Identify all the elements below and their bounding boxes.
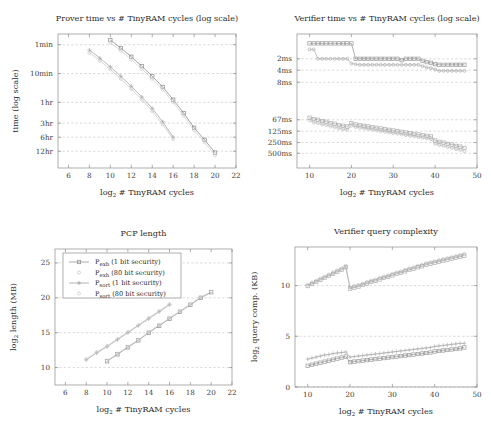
panel-verifier-query-complexity: Verifier query complexity10203040500510l…	[245, 217, 491, 434]
figure-four-panel-benchmark: Prover time vs # TinyRAM cycles (log sca…	[0, 0, 491, 434]
panel-verifier-time: Verifier time vs # TinyRAM cycles (log s…	[245, 0, 491, 217]
y-axis: 500ms250ms125ms67ms8ms4ms2ms	[268, 54, 477, 157]
y-tick-label: 10	[41, 363, 51, 372]
x-axis: 1020304050	[303, 247, 482, 399]
x-tick-label: 50	[472, 171, 482, 180]
y-tick-label: 3hr	[40, 119, 53, 128]
y-tick-label: 4ms	[277, 66, 292, 75]
chart-title: Prover time vs # TinyRAM cycles (log sca…	[56, 13, 238, 23]
gridlines	[295, 286, 477, 387]
chart-title: Verifier query complexity	[333, 226, 438, 236]
x-tick-label: 8	[84, 388, 89, 397]
y-axis-label: time (log scale)	[10, 69, 20, 132]
series-1	[88, 51, 175, 140]
x-tick-label: 22	[227, 388, 236, 397]
gridlines	[58, 45, 236, 152]
x-axis: 6810121416182022	[66, 34, 240, 180]
y-tick-label: 10	[281, 281, 291, 290]
x-axis: 1020304050	[305, 34, 482, 180]
y-tick-label: 8ms	[277, 78, 292, 87]
legend: Pexh (1 bit security)Pexh (80 bit securi…	[63, 253, 181, 299]
chart-prover-time: Prover time vs # TinyRAM cycles (log sca…	[0, 0, 246, 217]
x-tick-label: 30	[388, 390, 398, 399]
x-tick-label: 50	[472, 390, 482, 399]
chart-verifier-query-complexity: Verifier query complexity10203040500510l…	[245, 217, 491, 434]
chart-verifier-time: Verifier time vs # TinyRAM cycles (log s…	[245, 0, 491, 217]
y-tick-label: 250ms	[268, 138, 293, 147]
x-tick-label: 12	[123, 388, 132, 397]
panel-pcp-length: PCP length681012141618202210152025log2 #…	[0, 217, 246, 434]
chart-title: Verifier time vs # TinyRAM cycles (log s…	[293, 13, 479, 23]
x-tick-label: 10	[303, 390, 313, 399]
plot-frame	[295, 247, 477, 387]
x-tick-label: 10	[106, 171, 116, 180]
chart-title: PCP length	[121, 228, 167, 238]
x-tick-label: 20	[345, 390, 355, 399]
x-tick-label: 18	[190, 171, 200, 180]
x-axis-label: log2 # TinyRAM cycles	[340, 187, 434, 198]
x-tick-label: 20	[347, 171, 357, 180]
y-tick-label: 1hr	[40, 98, 53, 107]
y-tick-label: 67ms	[272, 115, 292, 124]
x-tick-label: 12	[127, 171, 136, 180]
panel-prover-time: Prover time vs # TinyRAM cycles (log sca…	[0, 0, 246, 217]
x-axis-label: log2 # TinyRAM cycles	[97, 404, 191, 415]
y-axis-label: log2 length (MB)	[8, 283, 19, 351]
y-tick-label: 2ms	[277, 54, 292, 63]
y-tick-label: 1min	[35, 40, 54, 49]
y-tick-label: 20	[41, 293, 51, 302]
x-tick-label: 16	[165, 388, 175, 397]
x-tick-label: 40	[430, 390, 440, 399]
x-tick-label: 14	[144, 388, 154, 397]
y-axis-label: log2 query comp. (KB)	[249, 272, 260, 363]
x-tick-label: 8	[87, 171, 92, 180]
x-tick-label: 30	[389, 171, 399, 180]
series-1	[85, 303, 171, 361]
x-tick-label: 10	[102, 388, 112, 397]
x-tick-label: 6	[66, 171, 71, 180]
series-1	[308, 116, 466, 150]
series-3	[308, 42, 466, 67]
y-tick-label: 500ms	[268, 149, 293, 158]
y-tick-label: 0	[285, 383, 290, 392]
x-tick-label: 22	[231, 171, 240, 180]
x-tick-label: 20	[207, 388, 217, 397]
series-2	[109, 38, 217, 154]
gridlines	[297, 59, 477, 153]
series-0	[306, 253, 466, 289]
y-tick-label: 10min	[30, 69, 53, 78]
x-tick-label: 10	[305, 171, 315, 180]
x-axis-label: log2 # TinyRAM cycles	[339, 406, 433, 417]
y-tick-label: 5	[285, 332, 290, 341]
chart-pcp-length: PCP length681012141618202210152025log2 #…	[0, 217, 246, 434]
y-tick-label: 12hr	[36, 147, 54, 156]
x-tick-label: 6	[63, 388, 68, 397]
x-tick-label: 20	[210, 171, 220, 180]
x-axis-label: log2 # TinyRAM cycles	[100, 187, 194, 198]
x-tick-label: 14	[148, 171, 158, 180]
y-tick-label: 125ms	[268, 127, 293, 136]
x-tick-label: 40	[431, 171, 441, 180]
x-tick-label: 18	[186, 388, 196, 397]
series-3	[109, 41, 217, 157]
series-0	[308, 119, 466, 153]
series-3	[306, 346, 466, 368]
series-2	[308, 48, 466, 72]
x-tick-label: 16	[169, 171, 179, 180]
y-tick-label: 15	[41, 328, 51, 337]
y-tick-label: 25	[41, 258, 51, 267]
y-tick-label: 6hr	[40, 133, 53, 142]
